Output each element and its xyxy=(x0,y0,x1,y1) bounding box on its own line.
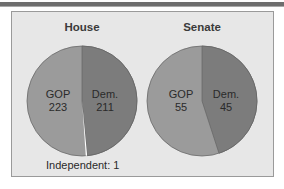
house-pie: GOP 223 Dem. 211 xyxy=(27,46,137,156)
senate-dem-label: Dem. xyxy=(213,88,239,100)
senate-gop-value: 55 xyxy=(175,101,187,113)
house-gop-label: GOP xyxy=(46,88,70,100)
house-gop-value: 223 xyxy=(49,101,67,113)
house-dem-label: Dem. xyxy=(92,88,118,100)
house-independent-label: Independent: 1 xyxy=(46,159,119,171)
senate-dem-value: 45 xyxy=(220,101,232,113)
pie-charts: GOP 223 Dem. 211 GOP 55 Dem. 45 xyxy=(0,0,284,189)
house-dem-value: 211 xyxy=(96,101,114,113)
senate-gop-label: GOP xyxy=(169,88,193,100)
senate-pie: GOP 55 Dem. 45 xyxy=(147,46,257,156)
